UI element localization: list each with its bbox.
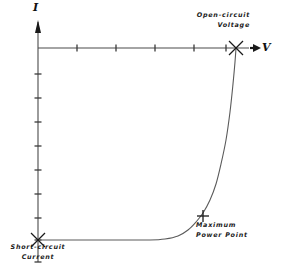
sc-label-line-2: Current bbox=[2, 253, 74, 263]
iv-curve-figure: Open-circuit Voltage Maximum Power Point… bbox=[0, 0, 287, 271]
mpp-label-line-1: Maximum bbox=[196, 221, 248, 231]
open-circuit-voltage-label: Open-circuit Voltage bbox=[178, 11, 250, 30]
x-axis-group bbox=[38, 44, 261, 52]
short-circuit-current-label: Short-circuit Current bbox=[2, 243, 74, 262]
point-markers bbox=[31, 41, 243, 247]
x-axis-label: V bbox=[262, 41, 271, 54]
y-axis-arrowhead bbox=[35, 20, 41, 33]
mpp-label-line-2: Power Point bbox=[196, 231, 248, 241]
x-axis-arrowhead bbox=[253, 44, 261, 52]
y-axis-label: I bbox=[33, 1, 38, 14]
y-axis-group bbox=[35, 20, 42, 262]
oc-label-line-2: Voltage bbox=[178, 21, 250, 31]
oc-label-line-1: Open-circuit bbox=[178, 11, 250, 21]
maximum-power-point-label: Maximum Power Point bbox=[196, 221, 248, 240]
iv-curve-path bbox=[38, 48, 236, 240]
sc-label-line-1: Short-circuit bbox=[2, 243, 74, 253]
